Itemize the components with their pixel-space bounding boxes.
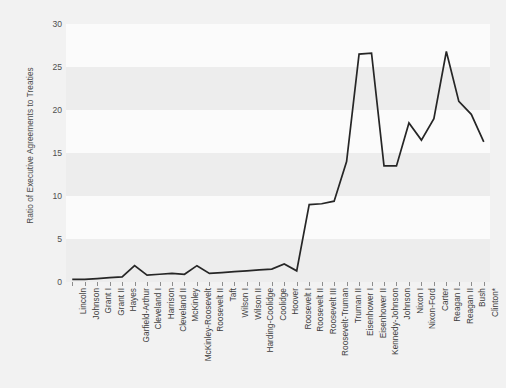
x-axis-tick-mark [147, 282, 148, 286]
line-series-svg [66, 24, 490, 282]
x-axis-tick-mark [272, 282, 273, 286]
x-axis-tick-mark [222, 282, 223, 286]
y-axis-title-text: Ratio of Executive Agreements to Treatie… [26, 67, 35, 224]
x-axis-tick-label: Cleveland I [151, 288, 165, 330]
x-axis-tick-mark [234, 282, 235, 286]
x-axis-tick-mark [97, 282, 98, 286]
y-axis-tick-labels: 051015202530 [40, 0, 62, 388]
y-axis-tick-label: 10 [52, 191, 62, 201]
x-axis-tick-mark [184, 282, 185, 286]
x-axis-tick-mark [209, 282, 210, 286]
x-axis-tick-label: Roosevelt-Truman [338, 288, 352, 356]
y-axis-tick-label: 0 [57, 277, 62, 287]
x-axis-tick-mark [247, 282, 248, 286]
y-axis-title: Ratio of Executive Agreements to Treatie… [22, 0, 38, 290]
x-axis-tick-mark [297, 282, 298, 286]
ratio-line-series [72, 52, 484, 280]
x-axis-tick-mark [471, 282, 472, 286]
x-axis-tick-mark [197, 282, 198, 286]
y-axis-tick-label: 5 [57, 234, 62, 244]
x-axis-tick-mark [122, 282, 123, 286]
x-axis-tick-label: Clinton* [488, 288, 502, 317]
x-axis-tick-mark [359, 282, 360, 286]
x-axis-tick-mark [459, 282, 460, 286]
x-axis-tick-mark [384, 282, 385, 286]
x-axis-tick-mark [135, 282, 136, 286]
x-axis-tick-mark [284, 282, 285, 286]
x-axis-tick-mark [322, 282, 323, 286]
x-axis-tick-mark [372, 282, 373, 286]
x-axis-tick-mark [72, 282, 73, 286]
y-axis-tick-label: 15 [52, 148, 62, 158]
x-axis-tick-label: Eisenhower I [363, 288, 377, 336]
x-axis-tick-label: Hayes [126, 288, 140, 312]
chart-figure: Ratio of Executive Agreements to Treatie… [0, 0, 506, 388]
x-axis-tick-mark [421, 282, 422, 286]
x-axis-tick-mark [110, 282, 111, 286]
x-axis-tick-mark [347, 282, 348, 286]
x-axis-tick-mark [484, 282, 485, 286]
x-axis-tick-mark [259, 282, 260, 286]
x-axis-tick-mark [409, 282, 410, 286]
y-axis-tick-label: 30 [52, 19, 62, 29]
x-axis-tick-mark [172, 282, 173, 286]
plot-area [66, 24, 490, 282]
x-axis-tick-labels: LincolnJohnsonGrant IGrant IIHayesGarfie… [66, 288, 490, 384]
y-axis-tick-label: 20 [52, 105, 62, 115]
x-axis-tick-mark [309, 282, 310, 286]
x-axis-tick-mark [160, 282, 161, 286]
y-axis-tick-label: 25 [52, 62, 62, 72]
x-axis-tick-mark [396, 282, 397, 286]
x-axis-tick-mark [85, 282, 86, 286]
x-axis-tick-mark [434, 282, 435, 286]
x-axis-tick-mark [334, 282, 335, 286]
x-axis-tick-mark [446, 282, 447, 286]
